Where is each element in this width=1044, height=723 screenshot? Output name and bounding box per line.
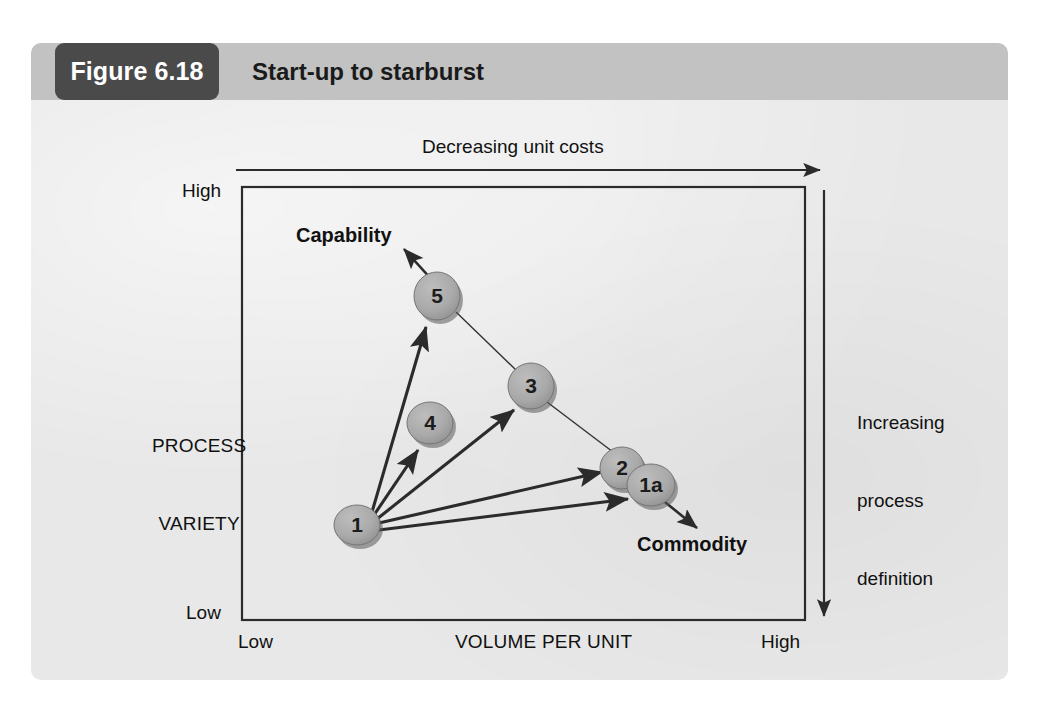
y-axis-high-tick: High: [182, 180, 221, 202]
capability-label: Capability: [296, 224, 392, 247]
x-axis-low-tick: Low: [238, 631, 273, 653]
increasing-process-definition-line2: process: [857, 488, 945, 514]
figure-number-label: Figure 6.18: [70, 57, 203, 86]
commodity-label: Commodity: [637, 533, 747, 556]
increasing-process-definition-line1: Increasing: [857, 410, 945, 436]
y-axis-title: PROCESS VARIETY: [152, 381, 246, 563]
figure-number-badge: Figure 6.18: [55, 43, 219, 100]
figure-title: Start-up to starburst: [252, 43, 484, 100]
increasing-process-definition-label: Increasing process definition: [857, 358, 945, 618]
y-axis-title-line1: PROCESS: [152, 433, 246, 459]
increasing-process-definition-line3: definition: [857, 566, 945, 592]
y-axis-low-tick: Low: [186, 602, 221, 624]
decreasing-unit-costs-label: Decreasing unit costs: [422, 136, 604, 158]
x-axis-high-tick: High: [761, 631, 800, 653]
x-axis-title: VOLUME PER UNIT: [455, 631, 632, 653]
figure-header-band: Figure 6.18 Start-up to starburst: [31, 43, 1008, 100]
y-axis-title-line2: VARIETY: [152, 511, 246, 537]
